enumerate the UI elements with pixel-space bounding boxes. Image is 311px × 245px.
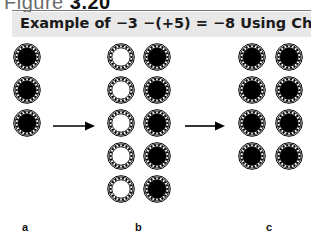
black-chip-icon (143, 175, 171, 203)
black-chip-icon (238, 109, 266, 137)
white-chip-icon (107, 76, 135, 104)
title-bar: Example of −3 −(+5) = −8 Using Chips (12, 12, 311, 37)
black-chip-icon (13, 76, 41, 104)
black-chip-icon (238, 76, 266, 104)
white-chip-icon (107, 43, 135, 71)
black-chip-icon (238, 142, 266, 170)
title-rule (12, 10, 311, 11)
panel-label-a: a (22, 221, 28, 233)
white-chip-icon (107, 109, 135, 137)
arrow-right-icon (53, 117, 95, 129)
figure-title: Example of −3 −(+5) = −8 Using Chips (20, 15, 311, 31)
panel-label-b: b (135, 221, 142, 233)
white-chip-icon (107, 142, 135, 170)
black-chip-icon (143, 142, 171, 170)
white-chip-icon (107, 175, 135, 203)
arrow-right-icon (185, 117, 225, 129)
black-chip-icon (13, 109, 41, 137)
black-chip-icon (275, 43, 303, 71)
panel-label-c: c (266, 221, 272, 233)
black-chip-icon (13, 43, 41, 71)
black-chip-icon (275, 76, 303, 104)
black-chip-icon (275, 142, 303, 170)
black-chip-icon (238, 43, 266, 71)
black-chip-icon (143, 76, 171, 104)
black-chip-icon (143, 109, 171, 137)
black-chip-icon (275, 109, 303, 137)
black-chip-icon (143, 43, 171, 71)
